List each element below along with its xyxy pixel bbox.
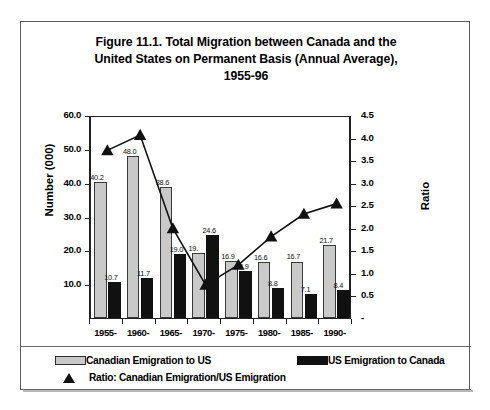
legend-label-canadian: Canadian Emigration to US [86, 355, 211, 366]
y-left-tick-40.0: 40.0 [35, 177, 81, 188]
value-label-canadian-3: 19. [188, 244, 198, 253]
title-line-2: United States on Permanent Basis (Annual… [21, 51, 471, 68]
ratio-marker-3 [199, 279, 211, 290]
ratio-marker-5 [265, 230, 277, 241]
y-right-tick-1.5: 1.5 [361, 244, 395, 255]
value-label-canadian-4: 16.9 [221, 252, 235, 261]
page-title: Figure 11.1. Total Migration between Can… [21, 34, 471, 85]
legend-swatch-light [55, 356, 86, 365]
x-tick-7 [318, 319, 319, 324]
y-left-tick-20.0: 20.0 [35, 244, 81, 255]
y-right-tick-0.5: 0.5 [361, 289, 395, 300]
x-tick-6 [286, 319, 287, 324]
y-right-tick-2.5: 2.5 [361, 199, 395, 210]
legend-item-canadian[interactable]: Canadian Emigration to US [55, 355, 211, 366]
legend-swatch-dark [297, 356, 328, 365]
x-tick-5 [253, 319, 254, 324]
value-label-us-2: 19.0 [170, 245, 184, 254]
value-label-canadian-0: 40.2 [90, 173, 104, 182]
value-label-canadian-1: 48.0 [123, 147, 137, 156]
value-label-us-3: 24.6 [202, 226, 216, 235]
value-label-us-0: 10.7 [104, 273, 118, 282]
y-left-tick-50.0: 50.0 [35, 143, 81, 154]
y-left-tick-30.0: 30.0 [35, 211, 81, 222]
ratio-polyline [107, 135, 336, 285]
y-right-tick-3.5: 3.5 [361, 154, 395, 165]
y-left-tick-10.0: 10.0 [35, 278, 81, 289]
legend-label-us: US Emigration to Canada [328, 355, 445, 366]
x-tick-end [351, 319, 352, 324]
y-axis-right-title: Ratio [419, 166, 431, 226]
frame-shadow [23, 390, 473, 392]
chart-legend: Canadian Emigration to US US Emigration … [21, 346, 471, 390]
value-label-us-6: 7.1 [301, 285, 311, 294]
title-line-3: 1955-96 [21, 68, 471, 85]
x-tick-0 [89, 319, 90, 324]
value-label-us-7: 8.4 [333, 281, 343, 290]
figure-frame: Figure 11.1. Total Migration between Can… [20, 21, 470, 390]
ratio-marker-2 [167, 222, 179, 233]
legend-item-ratio[interactable]: Ratio: Canadian Emigration/US Emigration [63, 372, 286, 383]
y-left-tick-60.0: 60.0 [35, 109, 81, 120]
ratio-marker-0 [101, 144, 113, 155]
value-label-canadian-2: 38.6 [156, 178, 170, 187]
legend-label-ratio: Ratio: Canadian Emigration/US Emigration [89, 372, 286, 383]
x-axis-label-1990: 1990- [313, 327, 357, 338]
ratio-marker-7 [330, 197, 342, 208]
y-right-tick-4.5: 4.5 [361, 109, 395, 120]
y-right-tick-1.0: 1.0 [361, 267, 395, 278]
x-tick-4 [220, 319, 221, 324]
value-label-us-1: 11.7 [137, 269, 150, 278]
value-label-canadian-6: 16.7 [287, 252, 301, 261]
x-tick-3 [187, 319, 188, 324]
legend-item-us[interactable]: US Emigration to Canada [297, 355, 445, 366]
title-line-1: Figure 11.1. Total Migration between Can… [21, 34, 471, 51]
y-right-tick-3.0: 3.0 [361, 177, 395, 188]
y-right-tick-zero: - [361, 312, 395, 323]
triangle-icon [63, 373, 75, 383]
x-tick-1 [122, 319, 123, 324]
value-label-us-5: 8.8 [268, 279, 278, 288]
x-tick-2 [155, 319, 156, 324]
y-right-tick-4.0: 4.0 [361, 132, 395, 143]
value-label-us-4: 13.9 [235, 262, 249, 271]
value-label-canadian-5: 16.6 [254, 253, 268, 262]
ratio-marker-1 [134, 129, 146, 140]
value-label-canadian-7: 21.7 [319, 236, 333, 245]
y-right-tick-2.0: 2.0 [361, 222, 395, 233]
